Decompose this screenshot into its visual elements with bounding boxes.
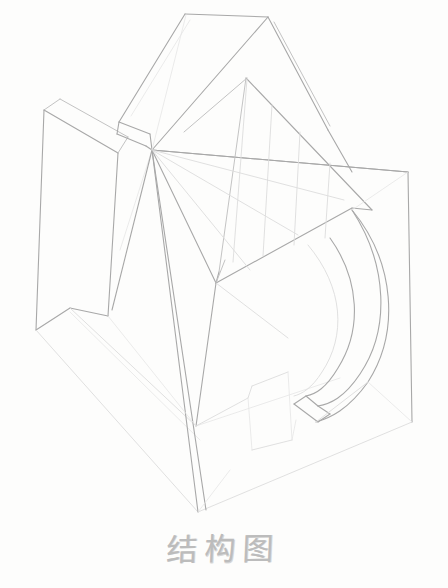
radial-line-vertical-b: [152, 150, 206, 510]
box-left-outer-edge: [36, 110, 44, 330]
guide-bottom-right-in: [368, 382, 412, 422]
arc-cap-tail: [316, 382, 368, 422]
wedge-bottom: [252, 440, 292, 450]
lower-wedge: [196, 372, 296, 450]
plate-bottom-back: [119, 122, 150, 134]
wedge-step: [252, 372, 288, 386]
plate-fold-hint: [184, 78, 247, 132]
diagonal-band: [216, 78, 372, 283]
wedge-top: [196, 398, 248, 426]
band-rib-4: [325, 163, 330, 238]
band-rib-1: [233, 79, 247, 262]
plate-right-edge-upper: [268, 17, 328, 130]
wedge-notch: [292, 420, 296, 440]
band-to-right: [216, 283, 288, 338]
plate-top-edge: [185, 14, 268, 17]
box-top-right-chord-dup: [152, 150, 408, 172]
box-bottom-right-edge: [198, 422, 412, 512]
box-right-edge: [408, 172, 412, 422]
plate-left-edge: [119, 14, 185, 122]
arc-cap-diag: [306, 396, 318, 406]
box-left-top-cap: [118, 137, 128, 153]
box-bottom-inner-edge: [70, 308, 196, 426]
plate-bottom-front: [117, 134, 146, 146]
arc-inner-curve: [306, 238, 354, 396]
plate-corner-thickness: [150, 134, 152, 150]
arc-cap-bottom: [294, 404, 318, 422]
drawing-sheet: .ln { fill:none; stroke:#c3c3c3; stroke-…: [0, 0, 448, 588]
arc-outer-curve: [316, 210, 389, 422]
radial-line-diag-b: [152, 150, 298, 235]
box-left-bottom-inner: [70, 308, 108, 316]
box-left-top-bevel: [44, 99, 60, 110]
guide-lines: [108, 15, 412, 512]
band-top-edge: [246, 78, 372, 210]
band-to-bottom-edge: [196, 283, 216, 426]
band-left-edge: [219, 78, 246, 272]
structural-sketch: .ln { fill:none; stroke:#c3c3c3; stroke-…: [0, 0, 448, 588]
arc-inner-curve-b: [294, 245, 338, 396]
plate-right-inner: [274, 22, 330, 126]
box-bottom-left-edge: [36, 330, 198, 512]
box-bottom-ledge: [196, 378, 340, 426]
radial-line-left-b: [112, 150, 152, 310]
radial-line-vertical: [152, 150, 198, 512]
curved-arc-band: [294, 210, 389, 422]
box-left-top-face: [44, 110, 118, 153]
radial-line-left: [120, 150, 152, 250]
box-left-bottom-bevel: [36, 308, 70, 330]
arc-cap-left: [294, 396, 306, 404]
guide-right-in: [352, 172, 408, 210]
outer-box-frame: [36, 99, 412, 512]
wedge-right-edge: [288, 372, 292, 440]
wedge-riser: [248, 386, 252, 398]
guide-left-to-bottom: [108, 316, 196, 426]
radial-line-diag-c: [152, 150, 344, 200]
wedge-left-edge: [248, 398, 252, 450]
